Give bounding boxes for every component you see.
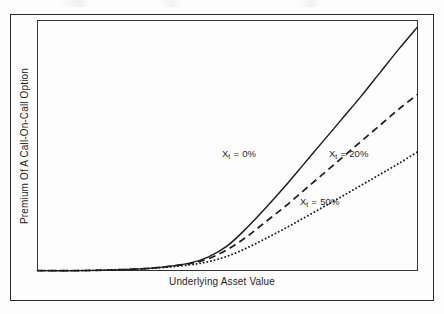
y-axis-label-container: Premium Of A Call-On-Call Option <box>14 20 34 271</box>
series-label-2-suffix: = 50% <box>309 196 340 207</box>
plot-area-border <box>37 20 418 271</box>
y-axis-label: Premium Of A Call-On-Call Option <box>19 68 30 224</box>
figure-container: Xt = 0% Xt = 20% Xt = 50% Underlying Ass… <box>0 0 444 314</box>
series-label-xt-50: Xt = 50% <box>300 196 340 207</box>
series-label-xt-20: Xt = 20% <box>329 148 369 159</box>
series-label-0-suffix: = 0% <box>231 148 257 159</box>
cropped-caption-remnant <box>60 0 390 7</box>
series-label-1-suffix: = 20% <box>338 148 369 159</box>
x-axis-label: Underlying Asset Value <box>0 276 444 287</box>
series-label-xt-0: Xt = 0% <box>222 148 256 159</box>
